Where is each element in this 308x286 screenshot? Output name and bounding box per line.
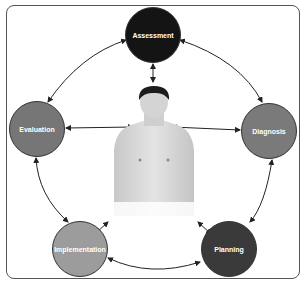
- patient-photo: [108, 84, 200, 216]
- node-label: Diagnosis: [252, 128, 285, 135]
- node-planning: Planning: [201, 221, 257, 277]
- arrow-planning-implementation: [108, 258, 200, 269]
- node-assessment: Assessment: [125, 7, 181, 63]
- arrow-implementation-evaluation: [36, 158, 68, 222]
- node-label: Assessment: [132, 32, 173, 39]
- node-label: Implementation: [54, 246, 106, 253]
- arrow-diagnosis-planning: [250, 160, 272, 222]
- node-implementation: Implementation: [52, 221, 108, 277]
- node-label: Planning: [214, 246, 244, 253]
- node-diagnosis: Diagnosis: [241, 103, 297, 159]
- node-evaluation: Evaluation: [9, 101, 65, 157]
- node-label: Evaluation: [19, 126, 54, 133]
